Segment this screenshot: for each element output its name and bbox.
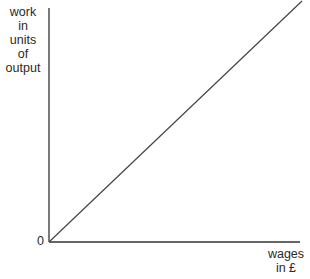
- x-label-line: in £: [262, 261, 310, 275]
- y-label-line: in: [0, 19, 46, 33]
- y-axis-label: work in units of output: [0, 5, 46, 75]
- x-axis-label: wages in £: [262, 247, 310, 275]
- origin-label: 0: [37, 234, 44, 248]
- y-label-line: output: [0, 61, 46, 75]
- chart-canvas: [0, 0, 310, 279]
- data-line: [49, 1, 302, 242]
- chart: work in units of output 0 wages in £: [0, 0, 310, 279]
- x-label-line: wages: [262, 247, 310, 261]
- y-label-line: units: [0, 33, 46, 47]
- y-label-line: of: [0, 47, 46, 61]
- y-label-line: work: [0, 5, 46, 19]
